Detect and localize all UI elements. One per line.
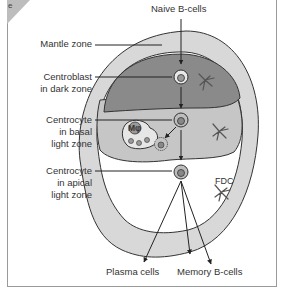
label-centroblast-line1: Centroblast (30, 71, 92, 83)
label-centrocyte-basal-line3: light zone (30, 138, 92, 150)
label-centrocyte-apical-line3: light zone (30, 189, 92, 201)
label-naive-b-cells: Naive B-cells (151, 3, 206, 15)
panel-tag: e (8, 1, 12, 10)
label-centrocyte-apical-line2: in apical (30, 177, 92, 189)
centrocyte-apical-cell (174, 165, 188, 179)
label-fdc: FDC (215, 175, 234, 187)
centrocyte-basal-cell (174, 113, 188, 127)
label-mantle-zone: Mantle zone (30, 38, 92, 50)
label-centrocyte-basal-line2: in basal (30, 126, 92, 138)
label-centrocyte-basal-line1: Centrocyte (30, 114, 92, 126)
label-plasma-cells: Plasma cells (106, 266, 159, 278)
label-macrophage: Mφ (128, 122, 141, 134)
label-centroblast-line2: in dark zone (30, 83, 92, 95)
label-centrocyte-apical-line1: Centrocyte (30, 165, 92, 177)
centroblast-cell (174, 70, 188, 84)
label-memory-b-cells: Memory B-cells (177, 266, 242, 278)
